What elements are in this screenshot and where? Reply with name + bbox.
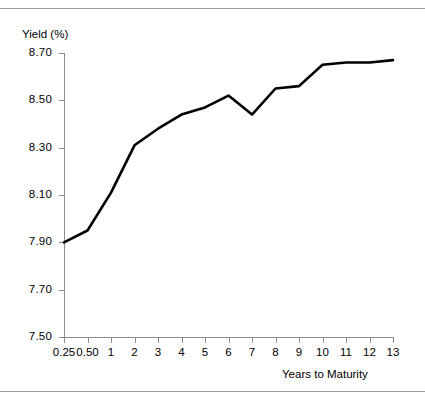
series-line-yield <box>0 0 425 401</box>
x-axis-title: Years to Maturity <box>282 368 368 380</box>
chart-figure: Yield (%) 8.708.508.308.107.907.707.50 0… <box>0 0 425 401</box>
